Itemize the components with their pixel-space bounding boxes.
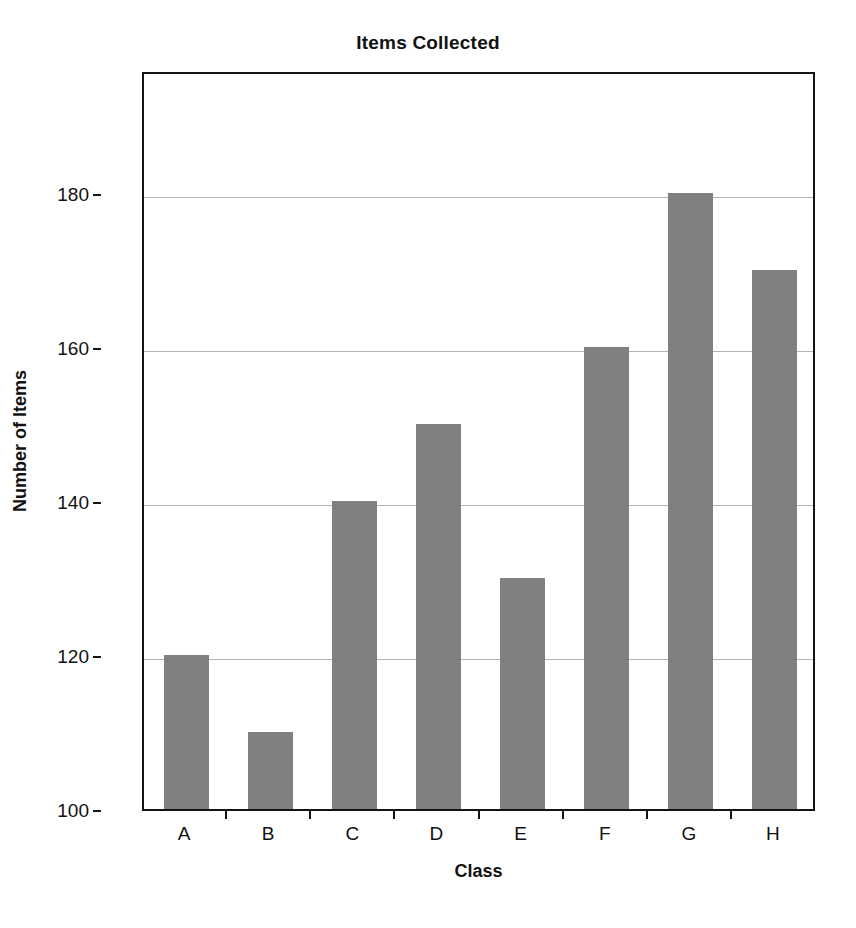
bar — [752, 270, 797, 809]
y-axis-tick — [93, 502, 101, 504]
bar — [416, 424, 461, 809]
x-axis-tick-label: B — [262, 823, 275, 845]
bar — [584, 347, 629, 809]
x-axis-tick — [225, 811, 227, 819]
y-axis-tick — [93, 194, 101, 196]
y-axis-tick-label: 160 — [57, 338, 89, 360]
x-axis-tick-label: G — [681, 823, 696, 845]
x-axis-tick — [562, 811, 564, 819]
y-axis-tick-label: 140 — [57, 492, 89, 514]
x-axis-tick-label: H — [766, 823, 780, 845]
bars-layer — [144, 74, 813, 809]
y-axis-tick-label: 100 — [57, 800, 89, 822]
x-axis-tick — [646, 811, 648, 819]
bar — [248, 732, 293, 809]
bar — [332, 501, 377, 809]
bar — [500, 578, 545, 809]
x-axis-tick — [393, 811, 395, 819]
y-axis: 100120140160180 — [0, 0, 142, 928]
plot-area — [142, 72, 815, 811]
x-axis-tick — [309, 811, 311, 819]
x-axis-tick — [730, 811, 732, 819]
x-axis-tick-label: C — [345, 823, 359, 845]
bar — [668, 193, 713, 809]
y-axis-tick-label: 180 — [57, 184, 89, 206]
bar-chart: Items Collected Number of Items 10012014… — [0, 0, 856, 928]
x-axis-title: Class — [142, 861, 815, 882]
y-axis-tick — [93, 656, 101, 658]
x-axis-tick-label: D — [430, 823, 444, 845]
x-axis-tick-label: E — [514, 823, 527, 845]
bar — [164, 655, 209, 809]
x-axis-tick-label: F — [599, 823, 611, 845]
y-axis-tick — [93, 810, 101, 812]
y-axis-tick-label: 120 — [57, 646, 89, 668]
x-axis-tick-label: A — [178, 823, 191, 845]
x-axis-tick — [478, 811, 480, 819]
y-axis-tick — [93, 348, 101, 350]
